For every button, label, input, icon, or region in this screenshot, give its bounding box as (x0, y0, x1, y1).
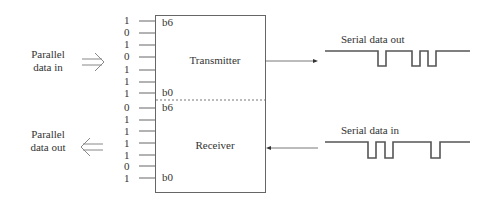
tx-b0-pin: b0 (162, 86, 173, 98)
receiver-pin-lines (139, 108, 155, 178)
rx-b0-pin: b0 (162, 171, 173, 183)
receiver-label: Receiver (175, 139, 255, 152)
rx-b6-pin: b6 (162, 101, 173, 113)
transmitter-pin-lines (139, 21, 155, 93)
serial-data-in-label: Serial data in (341, 124, 441, 137)
parallel-out-arrow-icon (81, 138, 103, 156)
serial-out-waveform (325, 51, 470, 66)
serial-out-arrow-icon (265, 59, 318, 63)
serial-in-waveform (325, 142, 470, 158)
diagram-graphics (0, 0, 491, 206)
transmitter-label: Transmitter (175, 54, 255, 67)
parallel-in-arrow-icon (82, 53, 104, 71)
tx-b6-pin: b6 (162, 16, 173, 28)
serial-in-arrow-icon (266, 146, 318, 150)
serial-data-out-label: Serial data out (341, 33, 441, 46)
